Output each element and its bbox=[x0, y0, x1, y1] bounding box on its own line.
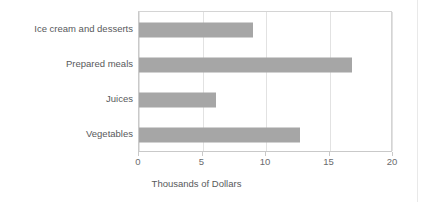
x-axis-tick-label-4: 20 bbox=[387, 157, 398, 167]
bar-prepared-meals[interactable] bbox=[139, 57, 352, 72]
y-axis-tick-label-2: Juices bbox=[106, 94, 133, 104]
y-axis-tick-label-0: Ice cream and desserts bbox=[34, 24, 133, 34]
plot-area bbox=[138, 11, 392, 152]
bar-vegetables[interactable] bbox=[139, 128, 300, 143]
y-axis-tick-label-1: Prepared meals bbox=[66, 59, 133, 69]
bar-chart-figure: Ice cream and desserts Prepared meals Ju… bbox=[0, 0, 431, 202]
bar-row bbox=[139, 118, 391, 153]
bar-ice-cream-and-desserts[interactable] bbox=[139, 22, 253, 37]
x-axis-tick-label-2: 10 bbox=[260, 157, 271, 167]
y-axis-tick-label-3: Vegetables bbox=[86, 129, 133, 139]
bar-row bbox=[139, 12, 391, 47]
gridline-20 bbox=[392, 12, 393, 151]
x-axis-tick-label-1: 5 bbox=[199, 157, 204, 167]
x-axis-tick-label-3: 15 bbox=[323, 157, 334, 167]
bar-row bbox=[139, 47, 391, 82]
x-axis-tick-label-0: 0 bbox=[135, 157, 140, 167]
figure-edge-divider bbox=[417, 0, 418, 202]
bar-row bbox=[139, 83, 391, 118]
bar-juices[interactable] bbox=[139, 93, 216, 108]
x-axis-title: Thousands of Dollars bbox=[0, 179, 431, 189]
